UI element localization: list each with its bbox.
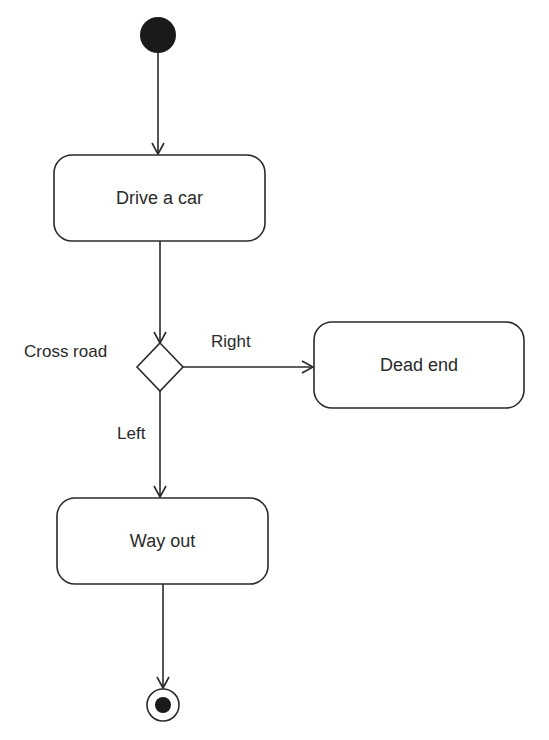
- left-guard-label: Left: [117, 424, 145, 444]
- drive-a-car-label: Drive a car: [54, 155, 265, 241]
- final-node-inner: [155, 697, 171, 713]
- dead-end-label: Dead end: [314, 322, 524, 408]
- right-guard-label: Right: [211, 332, 251, 352]
- initial-node: [140, 17, 176, 53]
- way-out-label: Way out: [57, 498, 268, 584]
- decision-label: Cross road: [24, 342, 107, 362]
- decision-node: [137, 343, 183, 391]
